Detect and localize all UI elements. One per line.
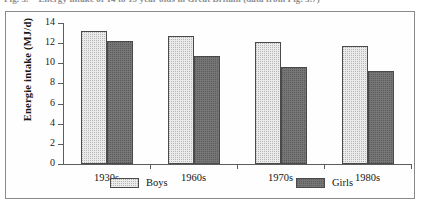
bar-boys-1930s	[81, 31, 107, 164]
y-tick-label: 14	[45, 16, 55, 27]
legend-label-boys: Boys	[146, 177, 168, 188]
chart-legend: BoysGirls	[63, 177, 411, 193]
bar-boys-1980s	[342, 46, 368, 164]
legend-entry-boys: Boys	[110, 177, 168, 188]
x-tick	[150, 164, 151, 169]
y-tick-0: 0	[58, 164, 63, 165]
bar-girls-1960s	[194, 56, 220, 164]
bar-girls-1970s	[281, 67, 307, 164]
y-axis-title: Energie intake (MJ/d)	[22, 0, 33, 140]
x-tick	[324, 164, 325, 169]
y-tick-label: 10	[45, 56, 55, 67]
y-axis-line	[63, 23, 64, 165]
y-tick-12: 12	[58, 43, 63, 44]
y-tick-4: 4	[58, 124, 63, 125]
y-tick-label: 12	[45, 36, 55, 47]
y-tick-2: 2	[58, 144, 63, 145]
figure-caption-text: Energy intake of 14 to 15 year olds in G…	[38, 0, 319, 4]
y-tick-14: 14	[58, 23, 63, 24]
legend-swatch-boys	[110, 178, 139, 188]
y-tick-label: 6	[50, 97, 55, 108]
figure-frame: Energie intake (MJ/d) 02468101214 1930s1…	[5, 11, 415, 199]
bar-girls-1930s	[107, 41, 133, 164]
y-tick-label: 0	[50, 157, 55, 168]
y-tick-10: 10	[58, 63, 63, 64]
legend-label-girls: Girls	[332, 177, 353, 188]
y-tick-label: 2	[50, 137, 55, 148]
y-tick-8: 8	[58, 83, 63, 84]
plot-area: 02468101214 1930s1960s1970s1980s	[63, 23, 411, 164]
bar-boys-1960s	[168, 36, 194, 164]
x-tick	[237, 164, 238, 169]
bar-boys-1970s	[255, 42, 281, 164]
y-tick-label: 8	[50, 76, 55, 87]
y-tick-label: 4	[50, 117, 55, 128]
legend-entry-girls: Girls	[296, 177, 353, 188]
y-tick-6: 6	[58, 104, 63, 105]
x-tick	[411, 164, 412, 169]
figure-caption: Fig. 3.Energy intake of 14 to 15 year ol…	[0, 0, 421, 10]
bar-girls-1980s	[368, 71, 394, 164]
legend-swatch-girls	[296, 178, 325, 188]
